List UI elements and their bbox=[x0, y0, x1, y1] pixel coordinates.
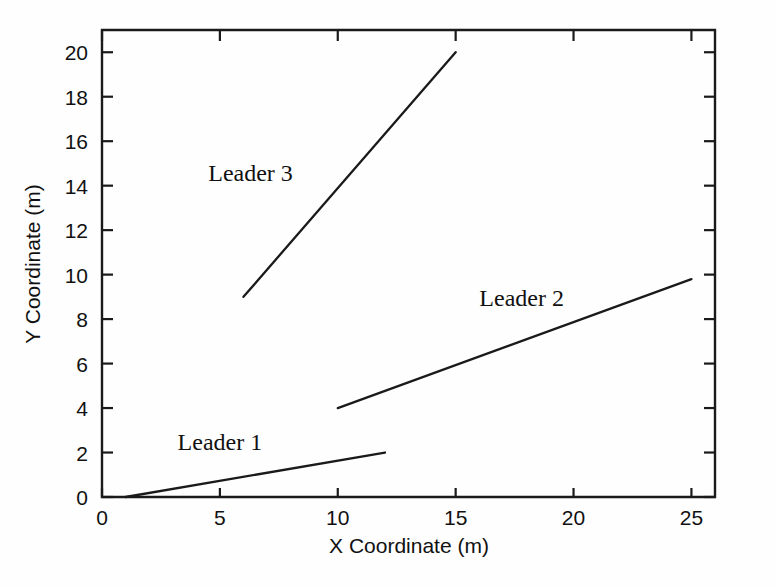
y-tick-label: 6 bbox=[76, 353, 88, 376]
x-tick-label: 0 bbox=[96, 506, 108, 529]
top-axis-ticks bbox=[102, 30, 691, 41]
y-tick-label: 2 bbox=[76, 442, 88, 465]
y-axis-tick-labels: 02468101214161820 bbox=[65, 41, 89, 509]
y-tick-label: 14 bbox=[65, 175, 89, 198]
y-tick-label: 8 bbox=[76, 308, 88, 331]
series-label-leader-1: Leader 1 bbox=[178, 429, 263, 455]
y-axis-ticks bbox=[102, 52, 113, 497]
x-tick-label: 10 bbox=[326, 506, 349, 529]
y-axis-title: Y Coordinate (m) bbox=[21, 184, 44, 344]
series-annotation-labels: Leader 1Leader 2Leader 3 bbox=[178, 160, 564, 455]
x-axis-ticks bbox=[102, 488, 691, 497]
plot-canvas: 0510152025 02468101214161820 Leader 1Lea… bbox=[0, 0, 775, 587]
x-axis-title: X Coordinate (m) bbox=[329, 534, 489, 557]
x-tick-label: 20 bbox=[562, 506, 585, 529]
plot-border bbox=[102, 30, 715, 497]
x-tick-label: 5 bbox=[214, 506, 226, 529]
x-tick-label: 15 bbox=[444, 506, 467, 529]
axes-frame bbox=[102, 30, 715, 497]
y-tick-label: 18 bbox=[65, 86, 88, 109]
right-axis-ticks bbox=[704, 52, 715, 497]
y-tick-label: 20 bbox=[65, 41, 88, 64]
data-line-leader-1 bbox=[126, 453, 385, 497]
chart-figure: 0510152025 02468101214161820 Leader 1Lea… bbox=[0, 0, 775, 587]
x-axis-tick-labels: 0510152025 bbox=[96, 506, 703, 529]
y-tick-label: 4 bbox=[76, 397, 88, 420]
series-label-leader-3: Leader 3 bbox=[208, 160, 293, 186]
y-tick-label: 16 bbox=[65, 130, 88, 153]
y-tick-label: 0 bbox=[76, 486, 88, 509]
y-tick-label: 12 bbox=[65, 219, 88, 242]
x-tick-label: 25 bbox=[680, 506, 703, 529]
y-tick-label: 10 bbox=[65, 264, 88, 287]
series-label-leader-2: Leader 2 bbox=[479, 285, 564, 311]
